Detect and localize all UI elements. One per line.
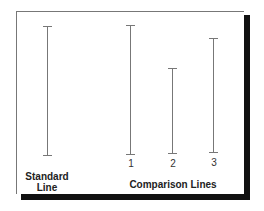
standard-label-line1: Standard [22, 171, 72, 182]
line-3-number: 3 [207, 157, 221, 168]
standard-label-line2: Line [22, 182, 72, 193]
standard-line-label: Standard Line [22, 171, 72, 193]
line-1-number: 1 [124, 158, 138, 169]
line-2-number: 2 [166, 158, 180, 169]
comparison-lines-label: Comparison Lines [128, 179, 218, 190]
